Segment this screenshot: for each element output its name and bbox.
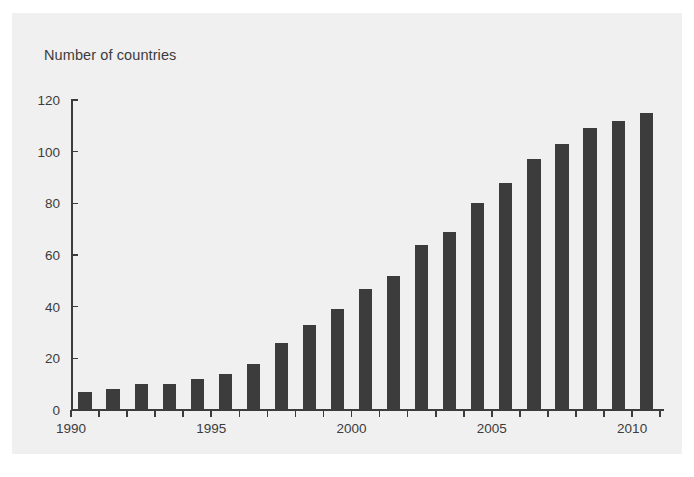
y-axis-tick — [71, 99, 78, 101]
y-axis-tick-label: 80 — [26, 196, 60, 211]
x-axis-tick — [603, 410, 605, 417]
y-axis-tick-label: 100 — [26, 144, 60, 159]
x-axis-tick — [295, 410, 297, 417]
bar — [135, 384, 148, 410]
x-axis-tick-label: 2010 — [617, 421, 647, 436]
x-axis-tick — [70, 410, 72, 417]
x-axis-tick-label: 2000 — [337, 421, 367, 436]
x-axis-tick — [210, 410, 212, 417]
y-axis-tick-label: 40 — [26, 299, 60, 314]
y-axis-tick-label: 0 — [26, 403, 60, 418]
x-axis-tick — [659, 410, 661, 417]
y-axis-tick — [71, 409, 78, 411]
y-axis-tick — [71, 254, 78, 256]
bar — [78, 392, 91, 410]
bar — [583, 128, 596, 410]
x-axis-tick — [351, 410, 353, 417]
bar — [331, 309, 344, 410]
y-axis-tick-label: 20 — [26, 351, 60, 366]
bar — [555, 144, 568, 410]
plot-area: 020406080100120 19901995200020052010 — [0, 0, 694, 477]
y-axis-tick — [71, 358, 78, 360]
y-axis-tick-label: 120 — [26, 93, 60, 108]
bar — [163, 384, 176, 410]
x-axis-tick — [519, 410, 521, 417]
x-axis-tick — [182, 410, 184, 417]
x-axis-tick — [631, 410, 633, 417]
y-axis-tick — [71, 151, 78, 153]
x-axis-tick — [435, 410, 437, 417]
x-axis-tick — [267, 410, 269, 417]
bar — [471, 203, 484, 410]
x-axis-tick — [575, 410, 577, 417]
x-axis-tick — [407, 410, 409, 417]
x-axis-tick — [154, 410, 156, 417]
x-axis-tick — [491, 410, 493, 417]
y-axis-tick-label: 60 — [26, 248, 60, 263]
x-axis-tick — [239, 410, 241, 417]
x-axis-tick-label: 2005 — [477, 421, 507, 436]
bar — [387, 276, 400, 410]
bar — [640, 113, 653, 410]
x-axis-tick-label: 1995 — [196, 421, 226, 436]
x-axis-tick — [323, 410, 325, 417]
bar — [499, 183, 512, 410]
bar — [275, 343, 288, 410]
x-axis-tick-label: 1990 — [56, 421, 86, 436]
figure: Number of countries 020406080100120 1990… — [0, 0, 694, 477]
y-axis-tick — [71, 203, 78, 205]
x-axis-tick — [463, 410, 465, 417]
bar — [359, 289, 372, 410]
bar — [247, 364, 260, 411]
y-axis-tick — [71, 306, 78, 308]
x-axis-tick — [547, 410, 549, 417]
bar — [303, 325, 316, 410]
bar — [106, 389, 119, 410]
bar — [415, 245, 428, 410]
x-axis-tick — [379, 410, 381, 417]
x-axis-tick — [98, 410, 100, 417]
bar — [612, 121, 625, 410]
x-axis-tick — [126, 410, 128, 417]
bar — [191, 379, 204, 410]
bar — [443, 232, 456, 410]
bar — [219, 374, 232, 410]
bar — [527, 159, 540, 410]
